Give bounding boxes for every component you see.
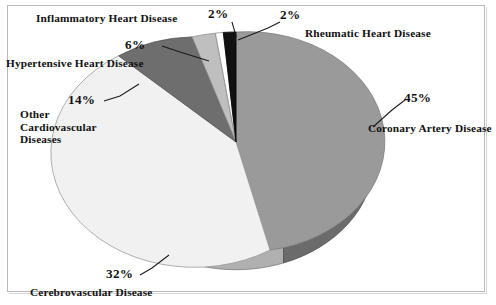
label-hypertensive-heart-disease: Hypertensive Heart Disease	[6, 57, 144, 70]
label-rheumatic-heart-disease: Rheumatic Heart Disease	[305, 27, 431, 40]
value-cerebrovascular-disease: 32%	[106, 267, 133, 282]
pie-chart-figure: Inflammatory Heart Disease 2% 2% Rheumat…	[0, 0, 496, 305]
value-inflammatory-heart-disease: 2%	[208, 7, 228, 22]
value-hypertensive-heart-disease: 6%	[125, 38, 145, 53]
label-inflammatory-heart-disease: Inflammatory Heart Disease	[36, 12, 177, 25]
value-coronary-artery-disease: 45%	[404, 91, 431, 106]
value-rheumatic-heart-disease: 2%	[280, 8, 300, 23]
label-coronary-artery-disease: Coronary Artery Disease	[368, 122, 492, 135]
label-cerebrovascular-disease: Cerebrovascular Disease	[30, 286, 152, 299]
value-other-cardiovascular-diseases: 14%	[68, 93, 95, 108]
pie-chart-graphic	[0, 0, 496, 305]
label-other-cardiovascular-diseases: Other Cardiovascular Diseases	[20, 108, 106, 146]
